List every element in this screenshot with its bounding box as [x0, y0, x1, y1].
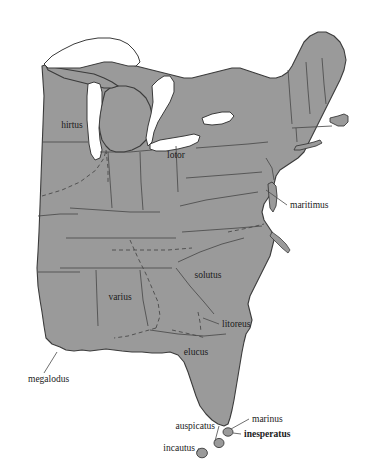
range-map: hirtus lotor varius solutus elucus marit…	[0, 0, 370, 476]
label-inesperatus: inesperatus	[244, 429, 291, 439]
label-marinus: marinus	[252, 414, 283, 424]
label-lotor: lotor	[167, 150, 186, 160]
label-hirtus: hirtus	[61, 120, 83, 130]
map-canvas: hirtus lotor varius solutus elucus marit…	[0, 0, 370, 476]
land-michigan-lower-peninsula	[99, 86, 152, 152]
label-solutus: solutus	[195, 270, 222, 280]
label-elucus: elucus	[184, 347, 209, 357]
label-litoreus: litoreus	[222, 319, 251, 329]
label-varius: varius	[108, 292, 132, 302]
label-megalodus: megalodus	[28, 374, 69, 384]
label-maritimus: maritimus	[290, 200, 329, 210]
label-auspicatus: auspicatus	[175, 421, 215, 431]
label-incautus: incautus	[163, 443, 195, 453]
